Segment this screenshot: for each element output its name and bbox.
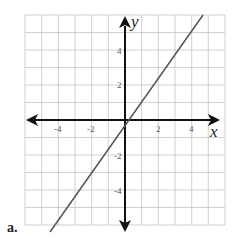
- x-axis-label: x: [210, 122, 218, 142]
- y-tick-label: -4: [114, 186, 122, 196]
- x-tick-label: -4: [54, 124, 62, 134]
- x-tick-label: -2: [87, 124, 95, 134]
- y-tick-label: 4: [117, 46, 122, 56]
- part-label: a.: [7, 220, 18, 236]
- coordinate-plane: [0, 0, 239, 239]
- y-axis-label: y: [131, 12, 139, 32]
- x-tick-label: 2: [156, 124, 161, 134]
- y-tick-label: 2: [117, 80, 122, 90]
- plotted-line: [50, 15, 203, 232]
- x-tick-label: 4: [189, 124, 194, 134]
- y-tick-label: -2: [114, 151, 122, 161]
